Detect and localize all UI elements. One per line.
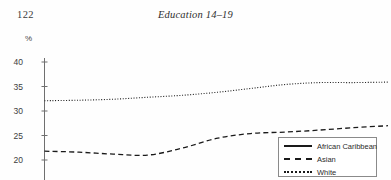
legend-item-african-caribbean: African Caribbean [279, 140, 376, 152]
legend-label-african-caribbean: African Caribbean [317, 142, 377, 151]
legend-item-white: White [279, 166, 376, 178]
chart-legend: African Caribbean Asian White [278, 137, 377, 177]
y-axis [42, 58, 48, 180]
legend-line-solid-icon [284, 141, 312, 151]
legend-line-dashed-icon [284, 154, 312, 164]
book-page: 122 Education 14–19 % 40 35 30 25 20 Afr… [0, 0, 391, 180]
legend-label-white: White [317, 168, 336, 177]
legend-label-asian: Asian [317, 155, 336, 164]
running-head-title: Education 14–19 [0, 9, 391, 20]
legend-line-dotted-icon [284, 167, 312, 177]
line-chart: % 40 35 30 25 20 African Caribbean [0, 34, 391, 180]
legend-item-asian: Asian [279, 153, 376, 165]
